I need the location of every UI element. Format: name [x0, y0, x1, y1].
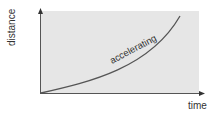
distance-time-graph: accelerating distance time: [0, 0, 221, 114]
y-axis-label: distance: [6, 8, 17, 46]
x-axis-arrow-icon: [199, 91, 205, 96]
x-axis-label: time: [188, 100, 207, 111]
